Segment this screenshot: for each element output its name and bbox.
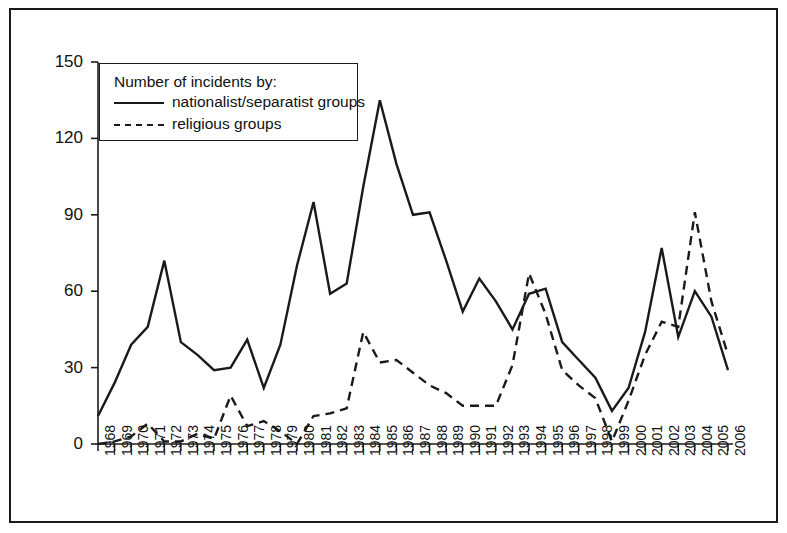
legend-title: Number of incidents by:: [114, 73, 277, 91]
y-tick-label: 0: [43, 435, 83, 452]
x-tick-label: 1981: [319, 425, 333, 456]
x-tick-label: 1979: [285, 425, 299, 456]
x-tick-label: 1986: [401, 425, 415, 456]
y-axis-ticks: [91, 62, 98, 444]
x-tick-label: 1970: [136, 425, 150, 456]
x-tick-label: 1993: [517, 425, 531, 456]
chart-figure: 0306090120150 19681969197019711972197319…: [0, 0, 787, 533]
x-tick-label: 1976: [236, 425, 250, 456]
y-tick-label: 60: [43, 282, 83, 299]
x-tick-label: 2005: [716, 425, 730, 456]
x-tick-label: 1989: [451, 425, 465, 456]
x-tick-label: 2004: [700, 425, 714, 456]
x-tick-label: 1997: [584, 425, 598, 456]
x-tick-label: 1971: [153, 425, 167, 456]
y-tick-label: 30: [43, 359, 83, 376]
x-tick-label: 1984: [368, 425, 382, 456]
x-tick-label: 2000: [634, 425, 648, 456]
legend-item-label: nationalist/separatist groups: [172, 93, 365, 111]
legend-item-label: religious groups: [172, 115, 281, 133]
y-tick-label: 90: [43, 206, 83, 223]
x-tick-label: 1978: [269, 425, 283, 456]
x-tick-label: 1998: [600, 425, 614, 456]
legend-swatch-dashed-icon: [114, 124, 164, 126]
x-tick-label: 2006: [733, 425, 747, 456]
x-tick-label: 2002: [667, 425, 681, 456]
x-tick-label: 2001: [650, 425, 664, 456]
x-tick-label: 1987: [418, 425, 432, 456]
x-tick-label: 1968: [103, 425, 117, 456]
x-tick-label: 1985: [385, 425, 399, 456]
x-tick-label: 1988: [435, 425, 449, 456]
data-series-group: [98, 100, 728, 444]
series-line-religious: [98, 212, 728, 444]
x-tick-label: 1991: [484, 425, 498, 456]
x-tick-label: 1992: [501, 425, 515, 456]
x-tick-label: 1972: [169, 425, 183, 456]
x-tick-label: 1995: [551, 425, 565, 456]
y-tick-label: 120: [43, 129, 83, 146]
x-tick-label: 1999: [617, 425, 631, 456]
x-tick-label: 1973: [186, 425, 200, 456]
x-tick-label: 1994: [534, 425, 548, 456]
legend: Number of incidents by: nationalist/sepa…: [99, 63, 358, 141]
x-tick-label: 1969: [120, 425, 134, 456]
x-tick-label: 1982: [335, 425, 349, 456]
x-tick-label: 1974: [202, 425, 216, 456]
x-tick-label: 1977: [252, 425, 266, 456]
x-tick-label: 2003: [683, 425, 697, 456]
y-tick-label: 150: [43, 53, 83, 70]
legend-swatch-solid-icon: [114, 102, 164, 104]
x-tick-label: 1990: [468, 425, 482, 456]
x-tick-label: 1980: [302, 425, 316, 456]
x-tick-label: 1975: [219, 425, 233, 456]
x-tick-label: 1983: [352, 425, 366, 456]
x-tick-label: 1996: [567, 425, 581, 456]
series-line-nationalist: [98, 100, 728, 416]
